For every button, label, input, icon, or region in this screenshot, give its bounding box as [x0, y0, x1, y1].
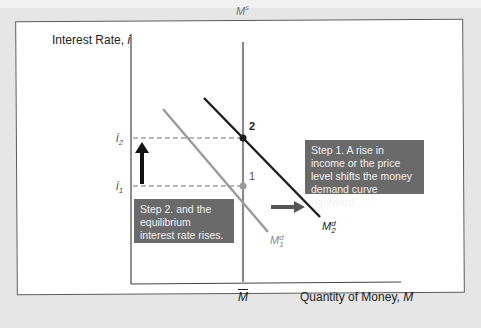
x-axis-label: Quantity of Money, M: [300, 290, 413, 304]
equilibrium-point-1: [240, 183, 247, 190]
arrow-up-icon: [135, 142, 149, 184]
i2-label: i2: [116, 131, 123, 147]
money-supply-label: Ms: [236, 4, 249, 17]
point-1-label: 1: [249, 170, 255, 182]
y-axis-label: Interest Rate, i: [52, 33, 130, 47]
x-tick-mbar: M: [238, 290, 248, 304]
step-2-annotation: Step 2. and the equilibrium interest rat…: [134, 199, 234, 243]
point-2-label: 2: [249, 120, 255, 132]
equilibrium-point-2: [240, 135, 247, 142]
i1-label: i1: [116, 179, 123, 195]
x-axis: [131, 282, 401, 284]
money-demand-1-label: Md1: [270, 234, 284, 248]
step-1-annotation: Step 1. A rise in income or the price le…: [305, 140, 424, 194]
arrow-right-icon: [271, 201, 305, 213]
money-demand-2-label: Md2: [322, 220, 336, 234]
